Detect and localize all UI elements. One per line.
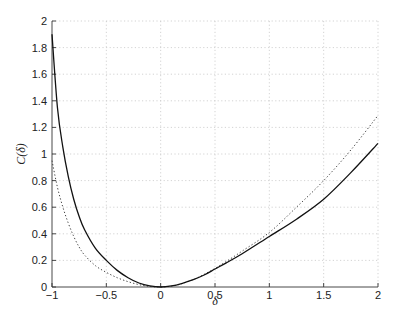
y-tick-label: 0.4 bbox=[32, 228, 47, 240]
y-tick-label: 1.8 bbox=[32, 42, 47, 54]
x-axis-label: δ bbox=[212, 294, 218, 308]
y-tick-label: 0.2 bbox=[32, 254, 47, 266]
y-tick-label: 0 bbox=[41, 281, 47, 293]
x-tick-label: 2 bbox=[375, 289, 381, 301]
y-tick-labels: 00.20.40.60.811.21.41.61.82 bbox=[32, 15, 47, 293]
y-tick-label: 1.6 bbox=[32, 68, 47, 80]
x-tick-label: −1 bbox=[46, 289, 59, 301]
x-tick-label: 1 bbox=[266, 289, 272, 301]
y-tick-label: 1 bbox=[41, 148, 47, 160]
x-tick-label: 1.5 bbox=[316, 289, 331, 301]
y-tick-label: 0.8 bbox=[32, 175, 47, 187]
grid-lines bbox=[52, 21, 378, 287]
y-tick-label: 2 bbox=[41, 15, 47, 27]
y-tick-label: 1.2 bbox=[32, 121, 47, 133]
y-axis-label: C(δ) bbox=[14, 143, 28, 165]
x-tick-label: 0 bbox=[158, 289, 164, 301]
chart: −1−0.500.511.52 00.20.40.60.811.21.41.61… bbox=[0, 0, 400, 322]
y-tick-label: 1.4 bbox=[32, 95, 47, 107]
y-tick-label: 0.6 bbox=[32, 201, 47, 213]
x-tick-label: −0.5 bbox=[95, 289, 117, 301]
